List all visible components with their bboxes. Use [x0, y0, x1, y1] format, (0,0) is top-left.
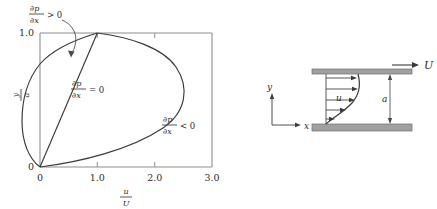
gap-dimension-arrowhead-bottom-icon: [388, 118, 392, 124]
x-axis-title: u U: [120, 187, 132, 208]
gap-dimension-arrowhead-top-icon: [388, 74, 392, 80]
annotation-adverse-leader-line: [62, 20, 76, 55]
annotation-favorable-denominator: ∂x: [163, 127, 172, 136]
annotation-favorable-relation: < 0: [180, 121, 195, 131]
coordinate-axis-x-label: x: [304, 121, 309, 131]
velocity-vector-2: [326, 87, 358, 91]
annotation-favorable-numerator: ∂p: [163, 115, 172, 124]
velocity-vector-1: [326, 76, 357, 80]
xtick-label-2: 2.0: [147, 172, 162, 183]
bottom-plate: [312, 124, 412, 131]
velocity-profile-label: u: [336, 93, 342, 103]
annotation-adverse-relation: > 0: [47, 10, 62, 20]
velocity-vector-arrowhead-icon-1: [351, 76, 357, 80]
coordinate-axis-x-arrowhead-icon: [295, 123, 301, 127]
couette-channel-diagram: U: [266, 59, 434, 131]
y-axis-title-denominator: a: [22, 92, 31, 97]
velocity-arrow-head-icon: [412, 62, 419, 68]
velocity-vector-arrowhead-icon-3: [349, 98, 355, 102]
velocity-vectors: [326, 76, 358, 121]
annotation-adverse-arrowhead-icon: [68, 51, 75, 58]
annotation-zero-relation: = 0: [89, 85, 104, 95]
annotation-zero-denominator: ∂x: [72, 91, 81, 100]
gap-dimension-label: a: [382, 94, 387, 104]
annotation-adverse-numerator: ∂p: [30, 4, 39, 13]
top-plate: [312, 69, 412, 74]
annotation-adverse-pressure-gradient: ∂p ∂x > 0: [29, 4, 76, 58]
annotation-adverse-denominator: ∂x: [30, 16, 39, 25]
x-axis-title-denominator: U: [123, 199, 130, 208]
velocity-profile-curve: [326, 74, 359, 124]
curve-adverse-pressure-gradient: [22, 33, 97, 167]
gap-dimension: a: [382, 74, 392, 124]
y-axis-title-numerator: y: [11, 92, 20, 98]
curve-zero-pressure-gradient: [40, 33, 97, 167]
annotation-zero-numerator: ∂p: [72, 79, 81, 88]
top-plate-velocity-label: U: [424, 59, 434, 72]
figure-canvas: 0 1.0 2.0 3.0 1.0 0 u U y a: [0, 0, 437, 209]
xtick-label-3: 3.0: [204, 172, 219, 183]
xtick-label-0: 0: [37, 172, 43, 183]
couette-flow-figure: 0 1.0 2.0 3.0 1.0 0 u U y a: [0, 0, 437, 209]
xtick-label-1: 1.0: [90, 172, 105, 183]
annotation-zero-pressure-gradient: ∂p ∂x = 0: [71, 79, 104, 100]
ytick-label-0: 0: [28, 161, 34, 172]
velocity-vector-arrowhead-icon-2: [352, 87, 358, 91]
coordinate-axes-indicator: y x: [266, 82, 309, 131]
curve-favorable-pressure-gradient: [40, 33, 184, 167]
coordinate-axis-y-label: y: [266, 82, 273, 92]
ytick-label-1: 1.0: [19, 27, 34, 38]
x-axis-title-numerator: u: [123, 187, 128, 196]
y-axis-title: y a: [11, 89, 31, 101]
coordinate-axis-y-arrowhead-icon: [270, 93, 274, 99]
velocity-profile-plot: 0 1.0 2.0 3.0 1.0 0 u U y a: [11, 4, 220, 208]
